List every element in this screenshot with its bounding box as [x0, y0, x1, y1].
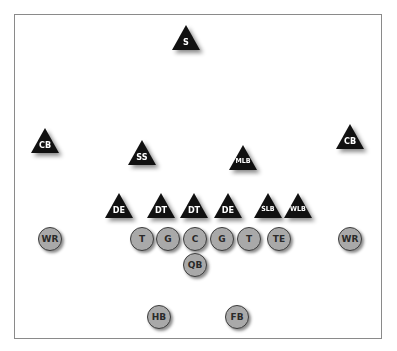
offense-tight-end: TE [267, 227, 291, 251]
position-label: QB [188, 260, 203, 270]
offense-tackle-right: T [237, 227, 261, 251]
offense-wide-receiver-right: WR [338, 227, 362, 251]
position-label: DE [105, 205, 133, 215]
offense-wide-receiver-left: WR [38, 227, 62, 251]
position-label: C [192, 234, 199, 244]
position-label: WLB [284, 204, 312, 214]
offense-fullback: FB [225, 305, 249, 329]
position-label: T [246, 234, 252, 244]
defender-defensive-tackle-right: DT [180, 193, 208, 218]
position-label: SLB [254, 204, 282, 214]
offense-tackle-left: T [130, 227, 154, 251]
defender-defensive-end-right: DE [214, 193, 242, 218]
position-label: WR [42, 234, 59, 244]
position-label: G [218, 234, 225, 244]
defender-middle-linebacker: MLB [229, 145, 257, 170]
offense-halfback: HB [147, 305, 171, 329]
defender-defensive-end-left: DE [105, 193, 133, 218]
defender-strongside-linebacker: SLB [254, 193, 282, 218]
defender-safety: S [172, 25, 200, 50]
defender-cornerback-left: CB [31, 128, 59, 153]
defender-cornerback-right: CB [336, 124, 364, 149]
defender-strong-safety: SS [128, 140, 156, 165]
offense-center: C [183, 227, 207, 251]
position-label: S [172, 37, 200, 47]
position-label: T [139, 234, 145, 244]
position-label: CB [31, 140, 59, 150]
offense-quarterback: QB [183, 253, 207, 277]
position-label: DT [180, 205, 208, 215]
position-label: WR [342, 234, 359, 244]
defender-defensive-tackle-left: DT [147, 193, 175, 218]
offense-guard-left: G [156, 227, 180, 251]
field-border [14, 14, 382, 339]
position-label: CB [336, 136, 364, 146]
position-label: DT [147, 205, 175, 215]
position-label: FB [230, 312, 243, 322]
position-label: TE [273, 234, 285, 244]
offense-guard-right: G [210, 227, 234, 251]
position-label: HB [152, 312, 166, 322]
position-label: MLB [229, 156, 257, 166]
position-label: G [164, 234, 171, 244]
defender-weakside-linebacker: WLB [284, 193, 312, 218]
position-label: DE [214, 205, 242, 215]
position-label: SS [128, 152, 156, 162]
